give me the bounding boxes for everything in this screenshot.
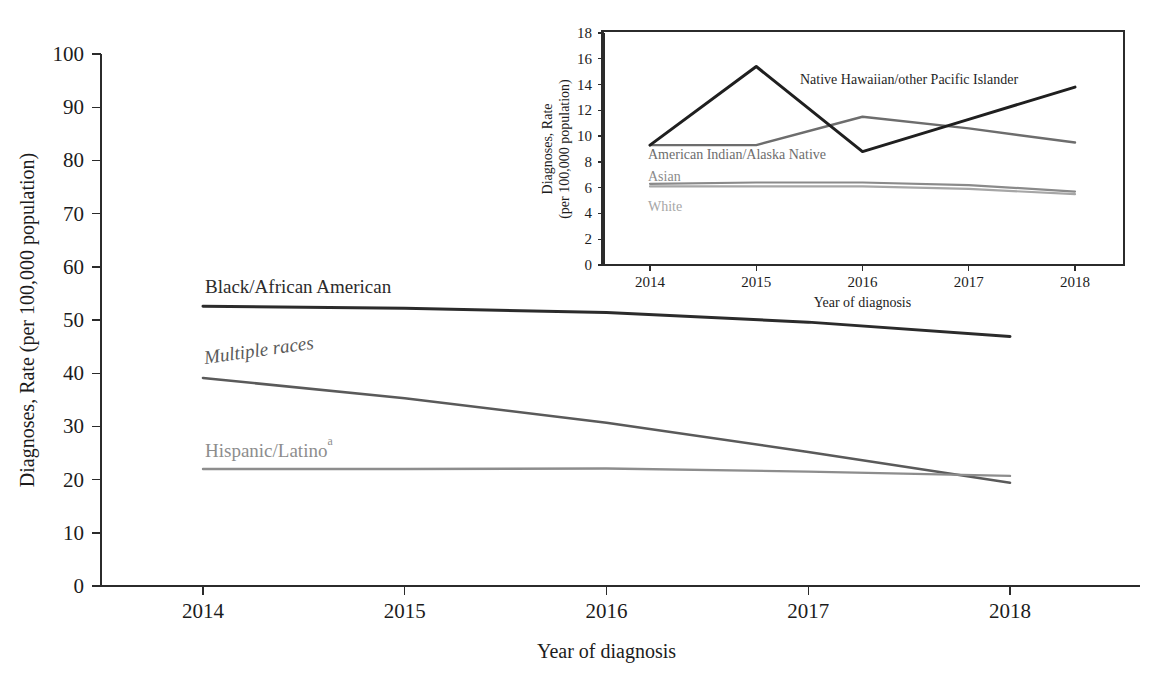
main-y-tick-label-100: 100 [53,42,85,66]
inset-y-tick-label-4: 4 [585,205,593,221]
inset-y-tick-label-6: 6 [585,180,593,196]
inset-y-tick-label-2: 2 [585,231,593,247]
inset-x-axis-title: Year of diagnosis [814,295,911,310]
main-y-tick-label-80: 80 [63,148,84,172]
inset-x-tick-label-2017: 2017 [954,274,985,290]
inset-y-tick-label-12: 12 [577,102,592,118]
inset-y-axis-title-line1: Diagnoses, Rate [540,104,555,195]
main-series-label-0: Black/African American [205,276,392,297]
inset-y-tick-label-8: 8 [585,154,593,170]
main-y-tick-label-70: 70 [63,202,84,226]
main-y-tick-label-50: 50 [63,308,84,332]
inset-series-label-0: Native Hawaiian/other Pacific Islander [800,72,1018,87]
inset-x-tick-label-2014: 2014 [635,274,666,290]
diagnoses-rate-line-chart: 0102030405060708090100 20142015201620172… [0,0,1149,678]
main-y-tick-label-90: 90 [63,95,84,119]
inset-y-axis-title-line2: (per 100,000 population) [557,79,573,219]
main-series-label-footnote: a [327,434,333,447]
main-x-tick-label-2017: 2017 [787,599,829,623]
main-x-axis-title: Year of diagnosis [537,640,676,663]
inset-x-tick-label-2016: 2016 [848,274,879,290]
inset-y-tick-label-10: 10 [577,128,592,144]
inset-y-tick-label-14: 14 [577,77,593,93]
inset-y-tick-label-0: 0 [585,257,593,273]
inset-series-label-2: Asian [648,169,681,184]
main-y-tick-label-20: 20 [63,468,84,492]
inset-series-label-3: White [648,199,682,214]
figure-root: 0102030405060708090100 20142015201620172… [0,0,1149,678]
main-x-tick-label-2018: 2018 [989,599,1031,623]
main-y-axis-title: Diagnoses, Rate (per 100,000 population) [16,153,39,487]
main-y-tick-label-60: 60 [63,255,84,279]
main-x-tick-label-2015: 2015 [384,599,426,623]
inset-y-tick-label-16: 16 [577,51,593,67]
inset-x-tick-label-2015: 2015 [741,274,771,290]
main-y-tick-label-0: 0 [74,574,85,598]
main-x-tick-label-2016: 2016 [586,599,628,623]
inset-series-label-1: American Indian/Alaska Native [648,147,826,162]
inset-x-tick-label-2018: 2018 [1060,274,1090,290]
inset-y-tick-label-18: 18 [577,25,592,41]
main-x-tick-label-2014: 2014 [182,599,225,623]
main-y-tick-label-40: 40 [63,361,84,385]
main-y-tick-label-30: 30 [63,414,84,438]
main-y-tick-label-10: 10 [63,521,84,545]
